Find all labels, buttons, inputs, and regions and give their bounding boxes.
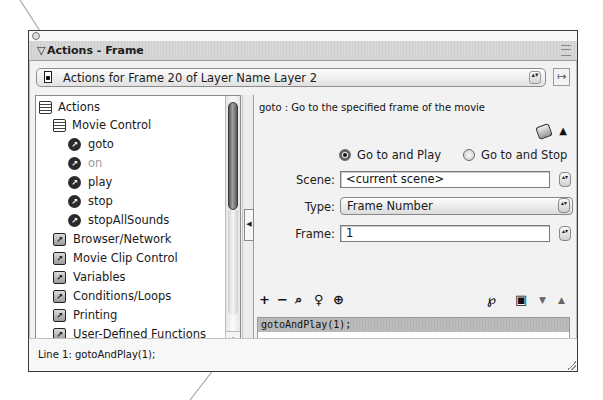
reference-book-icon[interactable] <box>535 123 553 140</box>
replace-icon[interactable]: ♀ <box>314 292 324 307</box>
toolbox-item-label: Variables <box>73 268 126 286</box>
dropdown-stepper-icon[interactable]: ▴▾ <box>529 71 541 84</box>
toolbox-item-variables[interactable]: ↗ Variables <box>53 268 126 286</box>
toolbox-item-label: Actions <box>58 98 100 116</box>
remove-action-button[interactable]: − <box>277 292 288 307</box>
toolbox-item-actions[interactable]: Actions <box>39 98 100 116</box>
collapse-triangle-icon[interactable]: ▽ <box>37 44 45 57</box>
toolbox-item-label: Movie Control <box>72 116 151 134</box>
toolbox-item-browser-network[interactable]: ↗ Browser/Network <box>53 230 172 248</box>
insert-target-path-icon[interactable]: ⊕ <box>333 292 344 307</box>
radio-button-checked[interactable] <box>339 149 351 161</box>
toolbox-item-label: on <box>88 154 102 172</box>
collapse-toolbox-arrow-icon[interactable]: ◀ <box>244 209 254 241</box>
category-square-icon: ↗ <box>53 309 66 322</box>
toolbox-item-label: Printing <box>73 306 117 324</box>
frame-field[interactable]: 1 <box>340 225 550 242</box>
toolbox-item-play[interactable]: ↗ play <box>68 173 112 191</box>
action-circle-icon: ↗ <box>68 214 81 227</box>
toolbox-item-on[interactable]: ↗ on <box>68 154 102 172</box>
radio-label: Go to and Play <box>357 148 441 162</box>
scene-label: Scene: <box>287 173 335 187</box>
type-value: Frame Number <box>347 199 433 213</box>
script-line-selected[interactable]: gotoAndPlay(1); <box>258 318 569 332</box>
move-down-icon[interactable]: ▼ <box>539 295 546 305</box>
frame-selector-dropdown[interactable]: Actions for Frame 20 of Layer Name Layer… <box>36 68 546 87</box>
radio-label: Go to and Stop <box>481 148 567 162</box>
debug-options-icon[interactable]: ℘ <box>487 292 496 307</box>
status-line-text: Line 1: gotoAndPlay(1); <box>38 349 155 360</box>
pin-script-button[interactable]: ↦ <box>553 68 570 86</box>
toolbox-item-label: play <box>88 173 112 191</box>
toolbox-item-label: stop <box>88 192 113 210</box>
scrollbar-thumb[interactable] <box>228 102 238 210</box>
move-up-icon[interactable]: ▲ <box>558 295 565 305</box>
type-stepper-icon[interactable]: ▴▾ <box>558 198 570 213</box>
radio-go-to-and-stop[interactable]: Go to and Stop <box>463 148 567 162</box>
frame-icon <box>44 71 52 83</box>
toolbox-item-stop[interactable]: ↗ stop <box>68 192 113 210</box>
radio-go-to-and-play[interactable]: Go to and Play <box>339 148 441 162</box>
category-square-icon: ↗ <box>53 290 66 303</box>
scrollbar-track[interactable] <box>228 210 238 315</box>
find-icon[interactable]: ⌕ <box>295 292 302 308</box>
radio-button-unchecked[interactable] <box>463 149 475 161</box>
action-circle-icon: ↗ <box>68 195 81 208</box>
actions-toolbox: Actions Movie Control ↗ goto ↗ on ↗ play… <box>35 95 241 363</box>
category-square-icon: ↗ <box>53 271 66 284</box>
toolbox-item-label: goto <box>88 135 114 153</box>
toolbox-item-goto[interactable]: ↗ goto <box>68 135 114 153</box>
book-icon <box>53 119 66 132</box>
add-action-button[interactable]: + <box>259 292 270 307</box>
toolbox-item-conditions-loops[interactable]: ↗ Conditions/Loops <box>53 287 171 305</box>
type-label: Type: <box>287 200 335 214</box>
panel-titlebar[interactable]: ▽ Actions - Frame <box>29 41 577 61</box>
category-square-icon: ↗ <box>53 233 66 246</box>
action-description: goto : Go to the specified frame of the … <box>259 102 485 113</box>
resize-grip-icon[interactable] <box>567 361 576 370</box>
actions-panel-window: ▽ Actions - Frame Actions for Frame 20 o… <box>28 30 578 372</box>
action-circle-icon: ↗ <box>68 138 81 151</box>
script-toolbar: + − ⌕ ♀ ⊕ ℘ ▣ ▼ ▲ <box>259 292 571 308</box>
action-circle-icon: ↗ <box>68 157 81 170</box>
toolbox-item-label: Movie Clip Control <box>73 249 178 267</box>
scene-field[interactable]: <current scene> <box>340 171 550 188</box>
toolbox-scrollbar[interactable]: ▲ ▼ <box>225 96 240 362</box>
toolbox-item-label: Conditions/Loops <box>73 287 171 305</box>
category-square-icon: ↗ <box>53 252 66 265</box>
panel-grip-icon[interactable] <box>32 32 40 40</box>
frame-selector-label: Actions for Frame 20 of Layer Name Layer… <box>63 71 317 85</box>
toolbox-item-label: Browser/Network <box>73 230 172 248</box>
action-circle-icon: ↗ <box>68 176 81 189</box>
frame-label: Frame: <box>287 227 335 241</box>
view-options-icon[interactable]: ▣ <box>515 292 527 307</box>
parameters-pane: goto : Go to the specified frame of the … <box>255 95 573 363</box>
status-bar: Line 1: gotoAndPlay(1); <box>29 338 577 371</box>
panel-title: Actions - Frame <box>47 44 144 57</box>
book-icon <box>39 101 52 114</box>
collapse-params-arrow-icon[interactable]: ▲ <box>559 125 567 136</box>
type-dropdown[interactable]: Frame Number ▴▾ <box>340 197 573 215</box>
toolbox-item-printing[interactable]: ↗ Printing <box>53 306 117 324</box>
toolbox-item-label: stopAllSounds <box>88 211 169 229</box>
toolbox-item-stopallsounds[interactable]: ↗ stopAllSounds <box>68 211 169 229</box>
pane-splitter[interactable]: ◀ <box>242 95 254 363</box>
frame-stepper-icon[interactable]: ▴▾ <box>559 226 571 241</box>
toolbox-item-movie-control[interactable]: Movie Control <box>53 116 151 134</box>
panel-options-menu-icon[interactable] <box>561 45 571 56</box>
toolbox-item-movie-clip-control[interactable]: ↗ Movie Clip Control <box>53 249 178 267</box>
scene-stepper-icon[interactable]: ▴▾ <box>559 172 571 187</box>
